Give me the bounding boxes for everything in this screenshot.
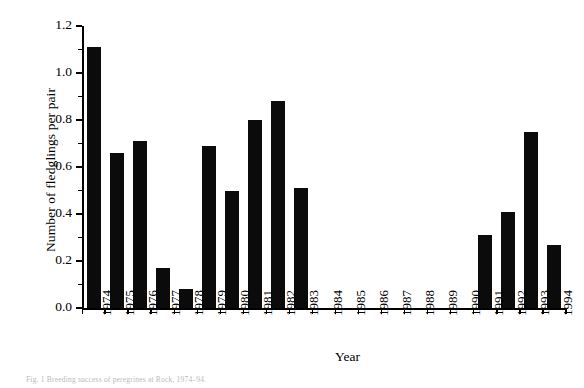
x-tick-label: 1994: [560, 290, 576, 316]
x-tick-label: 1977: [168, 290, 184, 316]
x-tick: [82, 308, 83, 314]
bar: [271, 101, 285, 308]
x-tick-label: 1978: [191, 290, 207, 316]
x-tick-label: 1979: [214, 290, 230, 316]
x-tick-label: 1993: [537, 290, 553, 316]
bar: [87, 47, 101, 308]
y-tick-label: 0.4: [36, 205, 72, 221]
y-tick-label: 0.0: [36, 299, 72, 315]
y-tick-minor: [78, 190, 82, 191]
plot-area: 0.00.20.40.60.81.01.2 197419751976197719…: [82, 26, 566, 308]
bar: [133, 141, 147, 308]
y-tick-minor: [78, 237, 82, 238]
y-tick-label: 1.0: [36, 64, 72, 80]
y-axis-line: [82, 26, 84, 308]
x-tick-label: 1976: [145, 290, 161, 316]
y-tick-label: 0.6: [36, 158, 72, 174]
y-tick-label: 1.2: [36, 17, 72, 33]
x-tick-label: 1982: [283, 290, 299, 316]
y-tick-minor: [78, 143, 82, 144]
figure: Number of fledglings per pair 0.00.20.40…: [0, 0, 584, 388]
bar: [524, 132, 538, 308]
bar: [248, 120, 262, 308]
x-tick-label: 1989: [445, 290, 461, 316]
y-tick-label: 0.8: [36, 111, 72, 127]
y-tick-minor: [78, 96, 82, 97]
y-tick-major: [76, 260, 83, 261]
x-tick-label: 1975: [122, 290, 138, 316]
y-tick-major: [76, 25, 83, 26]
y-tick-minor: [78, 49, 82, 50]
y-tick-major: [76, 72, 83, 73]
y-tick-major: [76, 213, 83, 214]
x-tick-label: 1992: [514, 290, 530, 316]
y-tick-major: [76, 119, 83, 120]
x-tick-label: 1980: [237, 290, 253, 316]
x-tick-label: 1981: [260, 290, 276, 316]
bar: [202, 146, 216, 308]
x-tick-label: 1991: [491, 290, 507, 316]
x-tick-label: 1986: [376, 290, 392, 316]
y-tick-label: 0.2: [36, 252, 72, 268]
figure-caption: Fig. 1 Breeding success of peregrines at…: [26, 375, 206, 384]
x-tick-label: 1990: [468, 290, 484, 316]
x-tick-label: 1984: [330, 290, 346, 316]
x-tick-label: 1985: [353, 290, 369, 316]
x-tick-label: 1983: [306, 290, 322, 316]
y-tick-major: [76, 166, 83, 167]
x-tick-label: 1974: [99, 290, 115, 316]
x-axis-title: Year: [335, 349, 360, 365]
x-tick-label: 1988: [422, 290, 438, 316]
bar: [110, 153, 124, 308]
y-tick-minor: [78, 284, 82, 285]
x-tick-label: 1987: [399, 290, 415, 316]
